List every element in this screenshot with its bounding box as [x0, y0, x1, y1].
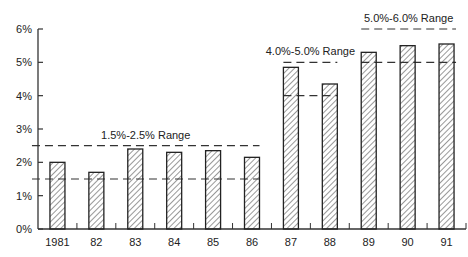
bar-85: [206, 151, 221, 229]
bar-91: [439, 44, 454, 229]
bar-86: [245, 157, 260, 229]
y-tick-label: 0%: [16, 223, 32, 235]
y-tick-label: 3%: [16, 123, 32, 135]
x-tick-label: 1981: [45, 236, 69, 248]
range-annotations: 1.5%-2.5% Range4.0%-5.0% Range5.0%-6.0% …: [32, 12, 456, 179]
x-tick-label: 86: [246, 236, 258, 248]
x-tick-label: 83: [129, 236, 141, 248]
x-tick-label: 88: [324, 236, 336, 248]
bar-87: [283, 67, 298, 229]
range-label: 5.0%-6.0% Range: [364, 12, 453, 24]
bar-90: [400, 46, 415, 229]
range-label: 4.0%-5.0% Range: [266, 45, 355, 57]
range-label: 1.5%-2.5% Range: [101, 129, 190, 141]
axes: 0%1%2%3%4%5%6%198182838485868788899091: [16, 23, 466, 248]
y-tick-label: 4%: [16, 90, 32, 102]
bar-1981: [50, 162, 65, 229]
y-tick-label: 2%: [16, 156, 32, 168]
bar-88: [322, 84, 337, 229]
bar-89: [361, 52, 376, 229]
y-tick-label: 1%: [16, 190, 32, 202]
x-tick-label: 85: [207, 236, 219, 248]
y-tick-label: 5%: [16, 56, 32, 68]
bar-84: [167, 152, 182, 229]
bar-82: [89, 172, 104, 229]
x-tick-label: 89: [363, 236, 375, 248]
x-tick-label: 90: [402, 236, 414, 248]
x-tick-label: 91: [440, 236, 452, 248]
bar-chart: 0%1%2%3%4%5%6%198182838485868788899091 1…: [0, 0, 468, 257]
bar-83: [128, 149, 143, 229]
x-tick-label: 82: [90, 236, 102, 248]
x-tick-label: 84: [168, 236, 180, 248]
x-tick-label: 87: [285, 236, 297, 248]
y-tick-label: 6%: [16, 23, 32, 35]
